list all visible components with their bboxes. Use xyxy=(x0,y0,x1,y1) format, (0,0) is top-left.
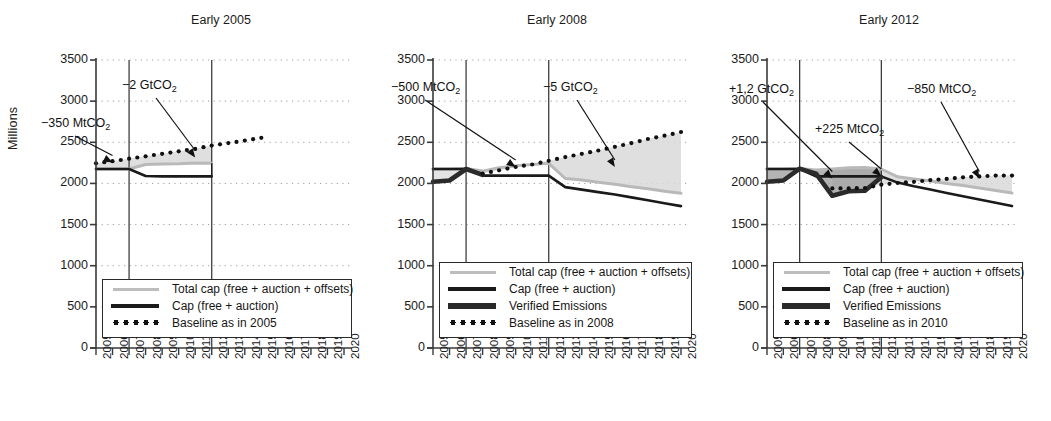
legend-item-verified[interactable]: Verified Emissions xyxy=(774,297,1022,314)
legend-item-label: Verified Emissions xyxy=(843,299,941,313)
cap-line-icon xyxy=(780,283,836,295)
total-cap-line-icon xyxy=(780,266,836,278)
annotation-arrows xyxy=(0,0,1051,421)
legend-item-label: Baseline as in 2010 xyxy=(843,316,948,330)
chart-legend: Total cap (free + auction + offsets)Cap … xyxy=(773,262,1023,338)
legend-item-total-cap[interactable]: Total cap (free + auction + offsets) xyxy=(774,263,1022,280)
verified-emissions-line-icon xyxy=(780,300,836,312)
baseline-dotted-line-icon xyxy=(780,317,836,329)
figure-root: Millions Early 2005050010001500200025003… xyxy=(0,0,1051,421)
legend-item-cap[interactable]: Cap (free + auction) xyxy=(774,280,1022,297)
chart-panel-3: Early 2012050010001500200025003000350020… xyxy=(0,0,1051,421)
legend-item-label: Total cap (free + auction + offsets) xyxy=(843,265,1024,279)
legend-item-label: Cap (free + auction) xyxy=(843,282,949,296)
legend-item-baseline[interactable]: Baseline as in 2010 xyxy=(774,314,1022,331)
